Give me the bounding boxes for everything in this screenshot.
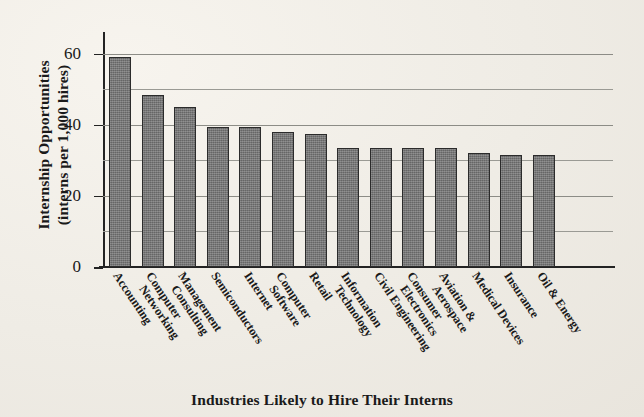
bar — [533, 155, 555, 267]
bar — [305, 134, 327, 267]
bar — [174, 107, 196, 267]
x-axis-tick-label-line: Oil & Energy — [534, 270, 584, 336]
bar — [370, 148, 392, 267]
y-axis-tick-label: 40 — [64, 115, 81, 135]
y-axis-tick: 40 — [94, 125, 103, 127]
y-axis-tick: 20 — [94, 196, 103, 198]
y-axis-tick-label: 20 — [64, 186, 81, 206]
bar — [500, 155, 522, 267]
bar — [468, 153, 490, 267]
x-axis-tick-labels: AccountingComputerNetworkingManagementCo… — [103, 270, 643, 378]
y-axis-tick-label: 0 — [73, 257, 82, 277]
bar — [239, 127, 261, 267]
y-axis-tick: 60 — [94, 54, 103, 56]
y-axis-tick: 0 — [94, 267, 103, 269]
y-axis-title-line1: Internship Opportunities — [34, 15, 53, 275]
y-axis-tick-label: 60 — [64, 44, 81, 64]
bar — [402, 148, 424, 267]
bar-series — [109, 36, 609, 267]
x-axis-tick-label: Oil & Energy — [534, 270, 584, 336]
x-axis-title: Industries Likely to Hire Their Interns — [0, 391, 644, 409]
bar — [142, 95, 164, 267]
bar — [207, 127, 229, 267]
bar — [435, 148, 457, 267]
bar — [337, 148, 359, 267]
plot-area: 0204060 — [103, 36, 613, 267]
bar — [272, 132, 294, 267]
bar — [109, 57, 131, 267]
